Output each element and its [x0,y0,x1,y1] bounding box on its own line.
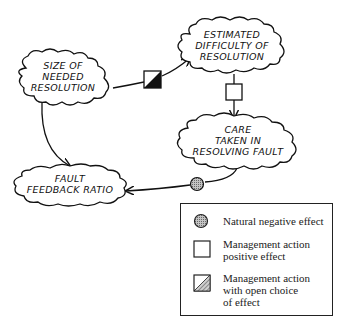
node-label: CARE [225,124,252,135]
edge-size-to-fault [42,102,70,166]
node-label: ESTIMATED [204,29,260,40]
node-label: RESOLVING FAULT [193,146,285,157]
node-label: RESOLUTION [200,51,265,62]
legend: Natural negative effect Management actio… [180,203,333,316]
node-label: DIFFICULTY OF [195,40,269,51]
node-label: NEEDED [42,71,84,82]
legend-label-natural-negative: Natural negative effect [223,215,331,227]
positive-effect-marker [226,84,242,100]
management-positive-effect-icon [193,240,211,258]
node-fault-feedback-ratio[interactable]: FAULT FEEDBACK RATIO [14,164,126,206]
node-label: TAKEN IN [215,135,261,146]
management-open-choice-icon [193,274,211,292]
node-care-taken-in-resolving-fault[interactable]: CARE TAKEN IN RESOLVING FAULT [177,113,296,169]
node-label: SIZE OF [43,60,83,71]
edge-care-to-fault [126,168,237,191]
node-label: RESOLUTION [31,82,96,93]
legend-label-positive: Management action positive effect [223,238,331,262]
node-size-of-needed-resolution[interactable]: SIZE OF NEEDED RESOLUTION [19,49,109,105]
node-label: FEEDBACK RATIO [27,184,114,195]
node-estimated-difficulty-of-resolution[interactable]: ESTIMATED DIFFICULTY OF RESOLUTION [178,17,284,73]
open-choice-marker [144,71,161,88]
natural-negative-effect-icon [193,213,209,229]
legend-label-open-choice: Management action with open choice of ef… [223,272,331,308]
node-label: FAULT [55,173,86,184]
natural-negative-marker [191,178,204,191]
